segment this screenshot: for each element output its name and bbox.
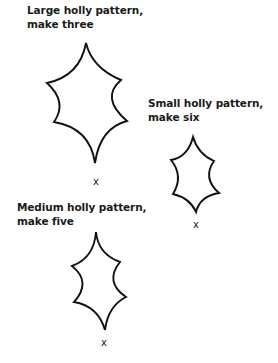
- holly-patterns-diagram: [0, 0, 278, 363]
- large-holly-leaf-outline: [47, 43, 127, 163]
- small-pattern-x-mark: x: [193, 220, 199, 230]
- small-holly-leaf-outline: [171, 137, 219, 212]
- medium-holly-leaf-outline: [72, 232, 126, 330]
- large-pattern-x-mark: x: [93, 177, 99, 187]
- medium-pattern-x-mark: x: [101, 338, 107, 348]
